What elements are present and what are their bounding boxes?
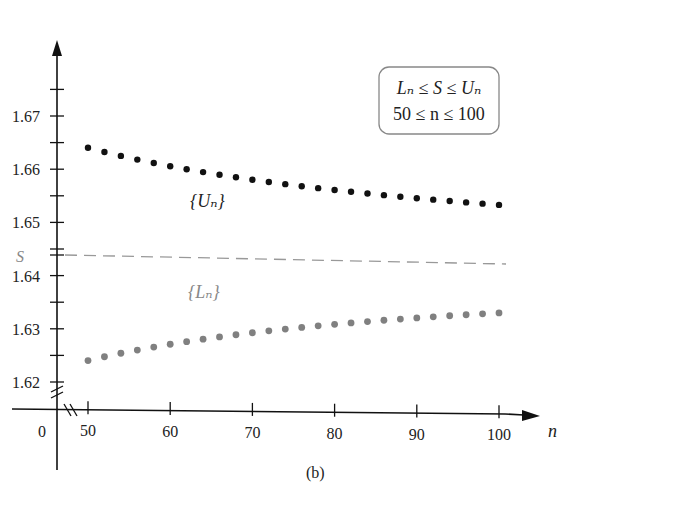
u-series <box>85 144 502 208</box>
x-ticks: 5060708090100 <box>80 401 511 443</box>
x-tick-label: 70 <box>244 424 260 441</box>
l-series <box>85 310 503 364</box>
y-axis-arrow-icon <box>52 40 62 56</box>
x-tick-label: 60 <box>162 423 178 440</box>
annotation-line1: Lₙ ≤ S ≤ Uₙ <box>396 78 481 98</box>
l-series-label: {Lₙ} <box>188 282 221 302</box>
series-bounds-chart: 1.621.631.641.651.661.67 5060708090100 S… <box>0 0 686 507</box>
origin-label: 0 <box>38 423 46 440</box>
s-label: S <box>16 248 24 265</box>
y-tick-label: 1.64 <box>12 268 40 285</box>
annotation-line2: 50 ≤ n ≤ 100 <box>393 104 485 124</box>
x-tick-label: 80 <box>327 425 343 442</box>
y-tick-label: 1.66 <box>12 161 40 178</box>
y-tick-label: 1.62 <box>12 374 40 391</box>
x-tick-label: 100 <box>487 426 511 443</box>
x-tick-label: 50 <box>80 422 96 439</box>
y-tick-label: 1.67 <box>12 108 40 125</box>
y-tick-label: 1.63 <box>12 321 40 338</box>
figure-caption: (b) <box>306 464 325 482</box>
x-tick-label: 90 <box>409 426 425 443</box>
x-axis-arrow-icon <box>522 410 540 421</box>
s-reference-line <box>65 255 506 264</box>
y-tick-label: 1.65 <box>12 214 40 231</box>
x-axis <box>12 409 505 414</box>
x-axis-name: n <box>548 421 557 441</box>
u-series-label: {Uₙ} <box>190 191 225 211</box>
